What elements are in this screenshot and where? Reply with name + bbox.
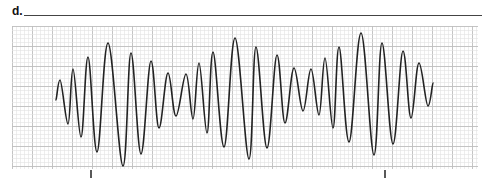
tick-marks [91, 170, 385, 178]
ecg-strip [0, 0, 484, 178]
